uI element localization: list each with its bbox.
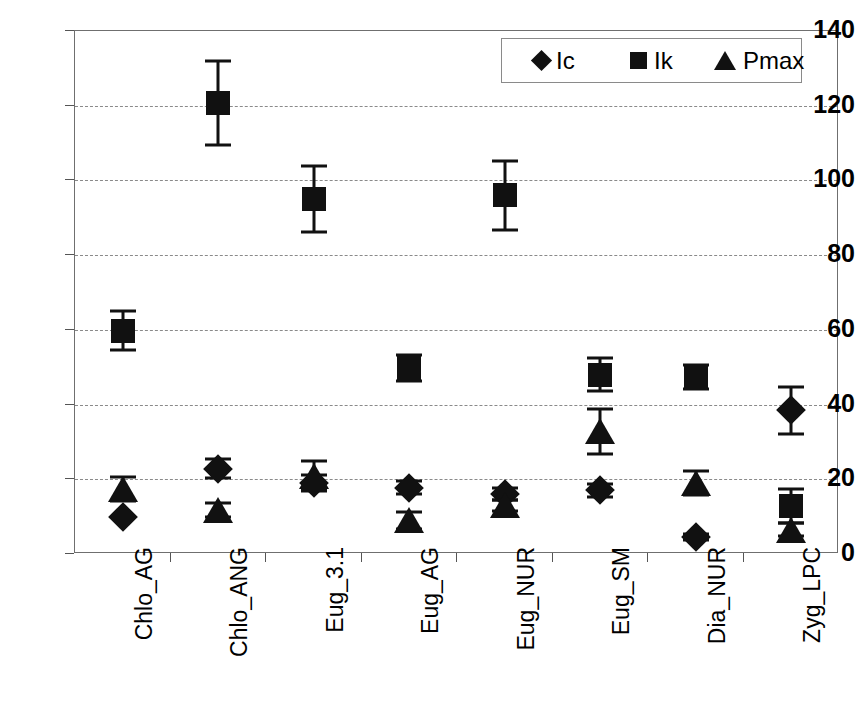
error-bar-cap-upper [205,458,231,461]
error-bar-stem [408,481,411,494]
error-bar-stem [599,409,602,454]
x-tick-label-eug-3-1: Eug_3.1 [324,547,347,697]
error-bar-cap-lower [683,388,709,391]
x-tick-label-chlo-ang: Chlo_ANG [228,547,251,697]
data-point-ic-dia-nur [75,31,837,552]
x-tick-mark-1 [170,553,171,562]
square-marker-icon [206,91,230,115]
legend-label-pmax: Pmax [743,49,804,73]
error-bar-cap-upper [396,353,422,356]
error-bar-cap-lower [205,515,231,518]
square-marker-icon [397,356,421,380]
legend-label-ic: Ic [556,49,575,73]
data-point-pmax-eug-nur [75,31,837,552]
square-marker-icon [493,183,517,207]
x-tick-label-dia-nur: Dia_NUR [706,547,729,697]
triangle-marker-icon [585,418,615,444]
y-tick-label-80: 80 [797,241,855,266]
x-tick-mark-2 [265,553,266,562]
square-marker-icon [302,187,326,211]
error-bar-cap-upper [396,511,422,514]
error-bar-cap-lower [492,229,518,232]
triangle-marker-icon [776,517,806,543]
error-bar-cap-upper [587,356,613,359]
data-point-ik-eug-ag [75,31,837,552]
chart-figure: 020406080100120140 Chlo_AGChlo_ANGEug_3.… [0,0,855,703]
diamond-marker-icon [394,473,424,503]
error-bar-cap-upper [301,459,327,462]
error-bar-cap-lower [778,432,804,435]
legend-entry-ik: Ik [630,39,673,82]
error-bar-cap-upper [205,502,231,505]
y-tick-label-40: 40 [797,391,855,416]
chart-legend: Ic Ik Pmax [501,38,802,83]
error-bar-cap-lower [778,521,804,524]
triangle-marker-icon [394,507,424,533]
error-bar-cap-lower [587,390,613,393]
error-bar-stem [408,512,411,528]
y-tick-label-60: 60 [797,316,855,341]
data-point-pmax-eug-sm [75,31,837,552]
data-point-pmax-eug-ag [75,31,837,552]
data-point-ic-chlo-ang [75,31,837,552]
data-point-ic-eug-sm [75,31,837,552]
error-bar-cap-upper [110,475,136,478]
diamond-marker-icon [108,502,138,532]
error-bar-stem [503,161,506,230]
error-bar-stem [790,523,793,536]
error-bar-cap-lower [205,143,231,146]
square-marker-icon [588,363,612,387]
data-point-ik-eug-sm [75,31,837,552]
gridline-20 [75,479,837,480]
error-bar-stem [599,358,602,392]
y-tick-mark-40 [65,404,74,405]
error-bar-stem [694,471,697,495]
error-bar-stem [217,459,220,478]
diamond-marker-icon [490,479,520,509]
error-bar-cap-upper [492,498,518,501]
y-tick-mark-20 [65,478,74,479]
x-tick-mark-4 [456,553,457,562]
error-bar-stem [790,489,793,523]
triangle-marker-icon [714,51,736,70]
error-bar-cap-upper [778,521,804,524]
data-point-pmax-chlo-ang [75,31,837,552]
square-marker-icon [630,52,647,69]
error-bar-stem [312,461,315,491]
error-bar-stem [694,534,697,540]
error-bar-cap-upper [683,364,709,367]
error-bar-cap-upper [683,470,709,473]
gridline-120 [75,106,837,107]
data-point-ic-zyg-lpc [75,31,837,552]
error-bar-cap-upper [683,533,709,536]
legend-entry-pmax: Pmax [714,39,804,82]
gridline-100 [75,180,837,181]
data-point-ik-eug-nur [75,31,837,552]
error-bar-cap-upper [587,408,613,411]
x-tick-mark-3 [361,553,362,562]
error-bar-cap-upper [205,59,231,62]
data-point-pmax-zyg-lpc [75,31,837,552]
triangle-marker-icon [681,470,711,496]
y-tick-label-20: 20 [797,465,855,490]
error-bar-cap-lower [587,495,613,498]
data-point-ic-eug-ag [75,31,837,552]
triangle-marker-icon [490,492,520,518]
error-bar-cap-lower [110,349,136,352]
x-tick-mark-6 [647,553,648,562]
gridline-80 [75,255,837,256]
diamond-marker-icon [531,50,552,71]
square-marker-icon [779,494,803,518]
error-bar-stem [503,500,506,511]
error-bar-cap-lower [778,535,804,538]
data-point-ik-chlo-ag [75,31,837,552]
data-point-ik-dia-nur [75,31,837,552]
error-bar-stem [599,484,602,497]
x-tick-label-chlo-ag: Chlo_AG [133,547,156,697]
error-bar-cap-lower [301,230,327,233]
gridline-40 [75,405,837,406]
y-tick-mark-100 [65,179,74,180]
data-point-pmax-dia-nur [75,31,837,552]
error-bar-cap-lower [396,493,422,496]
y-tick-mark-60 [65,329,74,330]
